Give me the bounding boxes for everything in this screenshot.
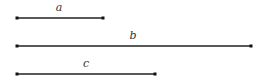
segment-a: a — [16, 1, 105, 20]
segment-b-label: b — [129, 29, 136, 42]
segment-a-start-point — [16, 17, 19, 20]
segment-a-label: a — [56, 1, 63, 14]
segment-c: c — [16, 57, 157, 76]
segment-a-end-point — [102, 17, 105, 20]
segment-c-end-point — [154, 73, 157, 76]
segments-diagram: a b c — [0, 0, 268, 84]
segment-b-start-point — [16, 45, 19, 48]
segment-c-label: c — [83, 57, 89, 70]
segment-c-start-point — [16, 73, 19, 76]
segment-b: b — [16, 29, 253, 48]
segment-b-end-point — [250, 45, 253, 48]
